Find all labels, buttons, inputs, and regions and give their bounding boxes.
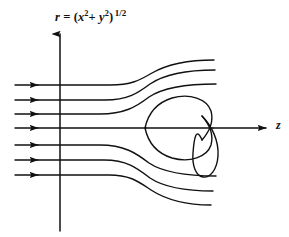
z-axis-label: z — [276, 119, 281, 131]
r-axis-label-plus: + — [89, 10, 96, 24]
r-axis-label: r = (x2+ y2)1/2 — [55, 11, 126, 24]
r-axis-label-power: 1/2 — [115, 8, 127, 18]
body-outline-upper — [145, 96, 212, 140]
body-trailing-loop — [193, 116, 218, 177]
r-axis-label-close-paren: ) — [109, 10, 113, 24]
figure-container: r = (x2+ y2)1/2 z — [0, 0, 289, 237]
streamline-diagram — [0, 0, 289, 237]
body-outline-lower — [145, 116, 212, 160]
streamline-7 — [15, 175, 211, 205]
